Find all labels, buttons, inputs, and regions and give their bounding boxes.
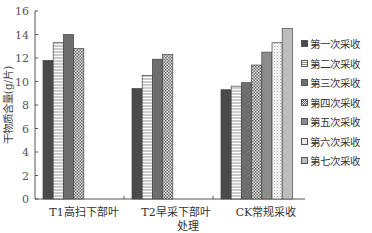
legend-swatch-icon bbox=[301, 118, 308, 125]
bar bbox=[132, 89, 142, 199]
x-tick-label: CK常规采收 bbox=[236, 205, 297, 219]
legend-item: 第五次采收 bbox=[301, 112, 372, 132]
legend-item: 第一次采收 bbox=[301, 34, 372, 54]
legend-swatch-icon bbox=[301, 79, 308, 86]
y-tick-label: 14 bbox=[15, 29, 29, 42]
y-tick-label: 4 bbox=[22, 146, 29, 159]
legend-item: 第二次采收 bbox=[301, 54, 372, 74]
x-axis-title: 处理 bbox=[177, 220, 199, 233]
bar bbox=[221, 90, 231, 199]
bar bbox=[152, 59, 162, 199]
bar bbox=[262, 52, 272, 199]
y-tick-label: 16 bbox=[15, 5, 29, 18]
bar bbox=[63, 35, 73, 200]
y-tick-label: 10 bbox=[15, 76, 29, 89]
bar bbox=[241, 83, 251, 199]
legend-item: 第七次采收 bbox=[301, 151, 372, 171]
legend-label: 第六次采收 bbox=[310, 134, 360, 149]
legend-label: 第三次采收 bbox=[310, 75, 360, 90]
legend-swatch-icon bbox=[301, 40, 308, 47]
legend-label: 第一次采收 bbox=[310, 36, 360, 51]
y-tick-label: 0 bbox=[22, 193, 29, 206]
bar bbox=[74, 49, 84, 199]
legend-swatch-icon bbox=[301, 157, 308, 164]
y-tick-label: 12 bbox=[15, 52, 29, 65]
bar bbox=[282, 29, 292, 199]
x-tick-label: T2早采下部叶 bbox=[141, 205, 210, 219]
bar bbox=[252, 65, 262, 199]
legend-item: 第三次采收 bbox=[301, 73, 372, 93]
legend-label: 第五次采收 bbox=[310, 114, 360, 129]
y-tick-label: 2 bbox=[22, 170, 29, 183]
legend-swatch-icon bbox=[301, 60, 308, 67]
legend-label: 第四次采收 bbox=[310, 95, 360, 110]
y-tick-label: 8 bbox=[22, 99, 29, 112]
y-tick-label: 6 bbox=[22, 123, 29, 136]
bar bbox=[231, 86, 241, 199]
legend-item: 第六次采收 bbox=[301, 132, 372, 152]
legend-swatch-icon bbox=[301, 99, 308, 106]
x-tick-label: T1高扫下部叶 bbox=[49, 205, 118, 219]
y-axis-title: 干物质含量(g/片) bbox=[2, 66, 14, 144]
bar bbox=[272, 43, 282, 199]
legend-swatch-icon bbox=[301, 138, 308, 145]
legend-label: 第七次采收 bbox=[310, 153, 360, 168]
bar bbox=[43, 60, 53, 199]
legend: 第一次采收第二次采收第三次采收第四次采收第五次采收第六次采收第七次采收 bbox=[301, 34, 372, 171]
legend-label: 第二次采收 bbox=[310, 56, 360, 71]
bar bbox=[142, 76, 152, 199]
legend-item: 第四次采收 bbox=[301, 93, 372, 113]
bar bbox=[163, 54, 173, 199]
bars bbox=[43, 29, 292, 199]
bar bbox=[53, 43, 63, 199]
